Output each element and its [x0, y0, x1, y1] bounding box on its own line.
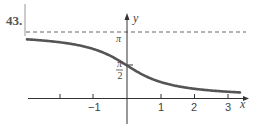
y-axis-arrow-icon: [125, 13, 130, 20]
tick-label-2: 2: [191, 101, 197, 113]
pi-label: π: [116, 33, 122, 44]
graph: y x π π 2 −1 1 2 3: [0, 0, 253, 127]
curve-arccot: [27, 39, 240, 92]
tick-label-3: 3: [225, 101, 231, 113]
x-axis-label: x: [239, 97, 246, 111]
x-ticks: [60, 94, 228, 99]
tick-label-1: 1: [158, 101, 164, 113]
pi-half-denominator: 2: [118, 70, 123, 81]
y-axis-label: y: [132, 11, 139, 25]
tick-label-neg1: −1: [88, 101, 101, 113]
